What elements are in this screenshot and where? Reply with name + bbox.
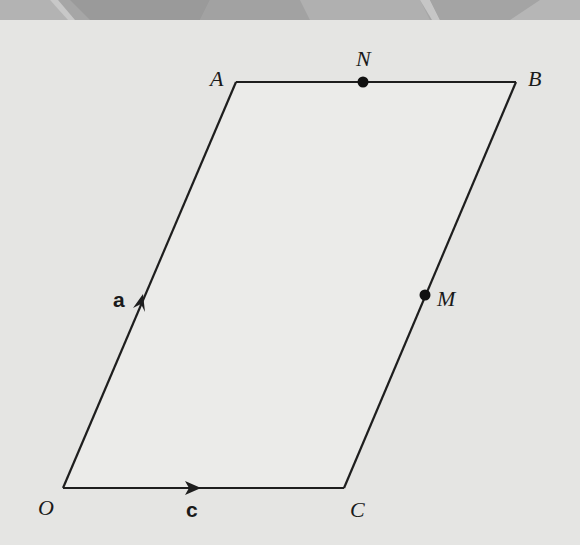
vertex-label-C: C xyxy=(350,497,365,522)
point-label-N: N xyxy=(355,46,372,71)
vertex-label-O: O xyxy=(38,495,54,520)
parallelogram-diagram: A B O C N M a c xyxy=(0,0,580,545)
point-label-M: M xyxy=(436,286,457,311)
parallelogram-fill xyxy=(63,82,516,488)
vector-label-a: a xyxy=(113,288,125,311)
vertex-label-B: B xyxy=(528,66,541,91)
vertex-label-A: A xyxy=(208,66,224,91)
point-N-dot xyxy=(358,77,369,88)
point-M-dot xyxy=(420,290,431,301)
vector-label-c: c xyxy=(186,498,198,521)
